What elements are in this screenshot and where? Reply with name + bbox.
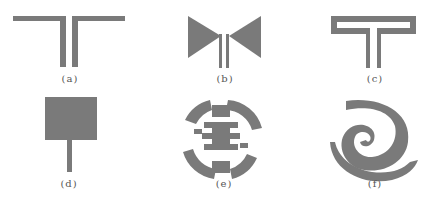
- panel-f-label: (f): [368, 178, 383, 189]
- panel-e-shape: [183, 100, 262, 179]
- panel-b-shape: [188, 16, 261, 68]
- panel-c-shape: [331, 16, 416, 68]
- antenna-figure: [0, 0, 424, 197]
- panel-e-label: (e): [216, 178, 233, 189]
- panel-c-label: (c): [367, 73, 383, 84]
- panel-a-shape: [13, 16, 125, 67]
- panel-b-label: (b): [216, 73, 233, 84]
- panel-d-shape: [45, 97, 97, 172]
- panel-f-shape: [330, 100, 418, 181]
- panel-d-label: (d): [60, 178, 77, 189]
- panel-a-label: (a): [62, 73, 79, 84]
